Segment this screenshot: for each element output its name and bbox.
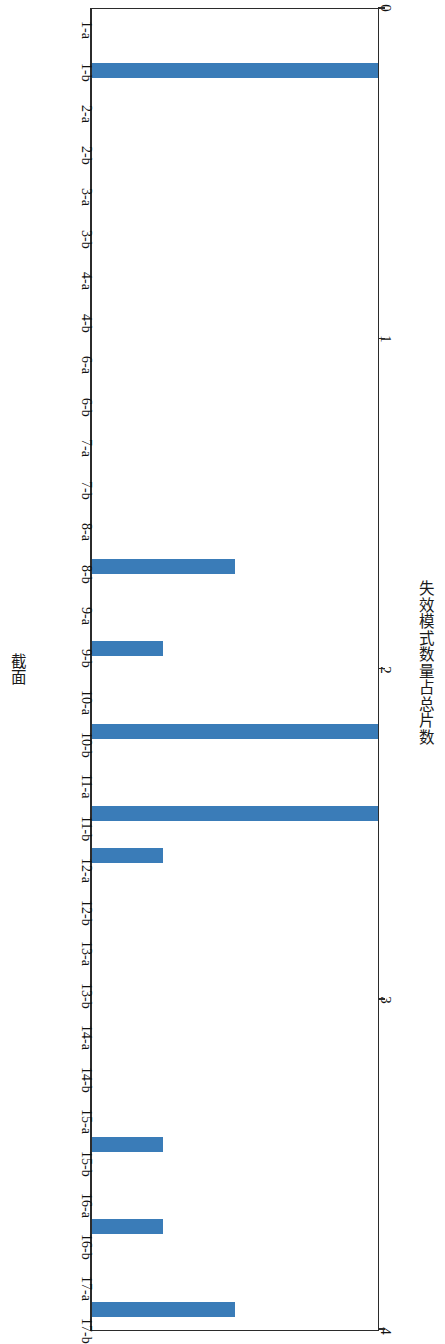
category-tick-label: 10-a <box>79 690 93 715</box>
category-tick-label: 14-b <box>79 1067 93 1093</box>
category-tick-label: 2-b <box>79 146 93 165</box>
category-tick-label: 14-a <box>79 1025 93 1050</box>
category-tick-label: 7-b <box>79 481 93 500</box>
category-tick-label: 1-b <box>79 63 93 82</box>
value-tick-mark <box>378 998 385 1000</box>
category-axis-title-text: 截面 <box>6 654 28 686</box>
category-tick-label: 4-b <box>79 314 93 333</box>
plot-area <box>90 8 379 1331</box>
category-tick-label: 15-a <box>79 1109 93 1134</box>
category-tick-label: 3-b <box>79 230 93 249</box>
category-tick-label: 16-b <box>79 1234 93 1260</box>
value-tick-mark <box>378 1328 385 1330</box>
bar <box>92 559 235 574</box>
bar <box>92 1219 164 1234</box>
category-tick-label: 8-a <box>79 523 93 541</box>
bar <box>92 1302 235 1317</box>
category-tick-label: 10-b <box>79 732 93 758</box>
category-axis-title: 截面 <box>0 0 34 1339</box>
category-tick-label: 1-a <box>79 21 93 39</box>
category-tick-label: 8-b <box>79 565 93 584</box>
category-tick-label: 7-a <box>79 439 93 457</box>
category-tick-label: 2-a <box>79 105 93 123</box>
bar <box>92 848 164 863</box>
category-tick-label: 16-a <box>79 1193 93 1218</box>
bar <box>92 63 378 78</box>
category-axis-labels: 1-a1-b2-a2-b3-a3-b4-a4-b6-a6-b7-a7-b8-a8… <box>34 0 90 1339</box>
value-axis-title-text: 失效模式数量占总片数 <box>414 580 436 745</box>
value-tick-mark <box>378 7 385 9</box>
bar <box>92 641 164 656</box>
category-tick-label: 12-b <box>79 900 93 926</box>
value-tick-mark <box>378 338 385 340</box>
value-axis-ticks: 01234 <box>379 0 405 1339</box>
category-tick-label: 13-b <box>79 983 93 1009</box>
category-tick-label: 17-b <box>79 1318 93 1344</box>
plot-and-category-axis: 1-a1-b2-a2-b3-a3-b4-a4-b6-a6-b7-a7-b8-a8… <box>0 0 379 1339</box>
category-tick-label: 11-b <box>79 816 93 841</box>
value-axis-title: 失效模式数量占总片数 <box>405 0 445 1339</box>
category-tick-label: 6-b <box>79 398 93 417</box>
category-tick-label: 9-a <box>79 607 93 625</box>
category-tick-label: 4-a <box>79 272 93 290</box>
category-tick-label: 15-b <box>79 1151 93 1177</box>
category-tick-label: 3-a <box>79 188 93 206</box>
bar <box>92 724 378 739</box>
category-tick-label: 17-a <box>79 1276 93 1301</box>
category-tick-label: 6-a <box>79 356 93 374</box>
value-tick-mark <box>378 668 385 670</box>
bar <box>92 1137 164 1152</box>
bar <box>92 806 378 821</box>
category-tick-label: 9-b <box>79 649 93 668</box>
category-tick-label: 12-a <box>79 858 93 883</box>
category-tick-label: 13-a <box>79 941 93 966</box>
category-tick-label: 11-a <box>79 774 93 798</box>
